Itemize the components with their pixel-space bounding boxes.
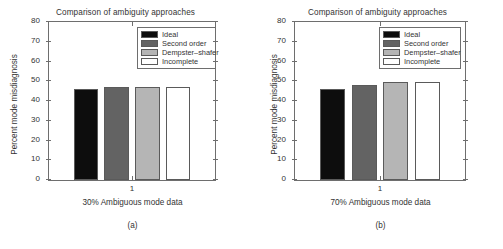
legend-item-dempster-shafer: Dempster–shafer — [141, 48, 212, 57]
legend-label: Second order — [162, 39, 206, 48]
y-tick-0: 0 — [292, 179, 297, 180]
bar-ideal — [74, 89, 99, 180]
bar-dempster-shafer — [383, 82, 408, 180]
x-tick-bottom — [380, 176, 381, 181]
y-tick-30: 30 — [292, 120, 297, 121]
plot-area-b: IdealSecond orderDempster–shaferIncomple… — [294, 21, 466, 181]
y-tick-label-50: 50 — [277, 75, 286, 84]
legend-label: Dempster–shafer — [162, 48, 219, 57]
y-tick-right-60 — [213, 61, 218, 62]
y-tick-20: 20 — [46, 140, 51, 141]
x-tick-top — [380, 21, 381, 26]
y-tick-right-40 — [213, 100, 218, 101]
plot-area-a: IdealSecond orderDempster–shaferIncomple… — [48, 21, 216, 181]
y-tick-80: 80 — [292, 21, 297, 22]
y-tick-label-70: 70 — [277, 36, 286, 45]
y-tick-10: 10 — [46, 159, 51, 160]
y-tick-label-0: 0 — [282, 174, 286, 183]
bar-incomplete — [166, 87, 191, 180]
y-tick-label-20: 20 — [277, 135, 286, 144]
legend-item-second-order: Second order — [383, 39, 457, 48]
y-tick-right-80 — [463, 21, 468, 22]
x-tick-label-a: 1 — [122, 184, 142, 193]
y-tick-60: 60 — [46, 61, 51, 62]
y-tick-label-40: 40 — [31, 95, 40, 104]
bar-ideal — [320, 89, 345, 180]
y-tick-label-40: 40 — [277, 95, 286, 104]
y-tick-right-10 — [463, 159, 468, 160]
y-tick-label-10: 10 — [31, 154, 40, 163]
bar-second-order — [352, 85, 377, 180]
legend-label: Incomplete — [404, 57, 440, 66]
legend-swatch-icon — [141, 49, 158, 56]
y-tick-label-60: 60 — [31, 56, 40, 65]
y-tick-50: 50 — [46, 80, 51, 81]
y-tick-label-30: 30 — [31, 115, 40, 124]
y-axis-label-a: Percent mode misdiagnosis — [10, 30, 19, 180]
legend-swatch-icon — [141, 40, 158, 47]
y-tick-label-80: 80 — [277, 16, 286, 25]
y-tick-right-50 — [463, 80, 468, 81]
legend-item-incomplete: Incomplete — [383, 57, 457, 66]
y-tick-label-30: 30 — [277, 115, 286, 124]
y-tick-label-20: 20 — [31, 135, 40, 144]
x-axis-label-b: 70% Ambiguous mode data — [252, 198, 503, 207]
legend-item-incomplete: Incomplete — [141, 57, 212, 66]
y-tick-70: 70 — [292, 41, 297, 42]
y-tick-60: 60 — [292, 61, 297, 62]
x-tick-bottom — [132, 176, 133, 181]
y-tick-right-10 — [213, 159, 218, 160]
y-tick-right-50 — [213, 80, 218, 81]
legend-label: Ideal — [162, 30, 178, 39]
legend-item-ideal: Ideal — [383, 30, 457, 39]
bar-incomplete — [415, 82, 440, 180]
y-tick-right-40 — [463, 100, 468, 101]
legend-item-ideal: Ideal — [141, 30, 212, 39]
y-tick-label-0: 0 — [36, 174, 40, 183]
y-tick-right-70 — [463, 41, 468, 42]
legend-item-second-order: Second order — [141, 39, 212, 48]
legend-swatch-icon — [383, 40, 400, 47]
y-tick-10: 10 — [292, 159, 297, 160]
legend-a: IdealSecond orderDempster–shaferIncomple… — [137, 27, 216, 69]
legend-swatch-icon — [383, 49, 400, 56]
y-tick-right-0 — [213, 179, 218, 180]
y-tick-20: 20 — [292, 140, 297, 141]
legend-label: Second order — [404, 39, 448, 48]
x-tick-label-b: 1 — [370, 184, 390, 193]
y-tick-right-20 — [213, 140, 218, 141]
x-tick-top — [132, 21, 133, 26]
y-tick-label-80: 80 — [31, 16, 40, 25]
y-tick-right-70 — [213, 41, 218, 42]
y-tick-30: 30 — [46, 120, 51, 121]
y-tick-80: 80 — [46, 21, 51, 22]
y-tick-label-60: 60 — [277, 56, 286, 65]
panel-caption-b: (b) — [252, 221, 503, 230]
legend-swatch-icon — [383, 58, 400, 65]
y-tick-label-70: 70 — [31, 36, 40, 45]
legend-swatch-icon — [141, 58, 158, 65]
bar-second-order — [104, 87, 129, 180]
legend-label: Dempster–shafer — [404, 48, 461, 57]
y-tick-50: 50 — [292, 80, 297, 81]
figure: Comparison of ambiguity approaches Perce… — [0, 0, 503, 249]
chart-title-b: Comparison of ambiguity approaches — [252, 8, 503, 17]
legend-swatch-icon — [383, 31, 400, 38]
y-tick-right-60 — [463, 61, 468, 62]
panel-caption-a: (a) — [0, 221, 251, 230]
y-tick-70: 70 — [46, 41, 51, 42]
y-tick-40: 40 — [46, 100, 51, 101]
y-tick-right-80 — [213, 21, 218, 22]
y-tick-right-0 — [463, 179, 468, 180]
x-axis-label-a: 30% Ambiguous mode data — [0, 198, 251, 207]
legend-swatch-icon — [141, 31, 158, 38]
y-tick-label-50: 50 — [31, 75, 40, 84]
chart-panel-a: Comparison of ambiguity approaches Perce… — [0, 0, 251, 249]
legend-label: Ideal — [404, 30, 420, 39]
legend-label: Incomplete — [162, 57, 198, 66]
y-tick-right-30 — [213, 120, 218, 121]
y-tick-right-20 — [463, 140, 468, 141]
y-tick-40: 40 — [292, 100, 297, 101]
bar-dempster-shafer — [135, 87, 160, 180]
legend-b: IdealSecond orderDempster–shaferIncomple… — [379, 27, 461, 69]
